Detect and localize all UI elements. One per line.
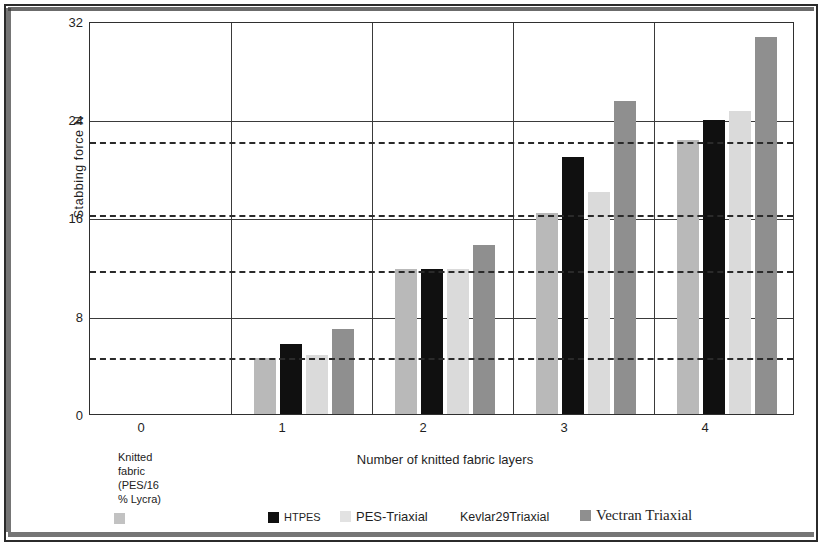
reference-line-0 — [90, 358, 793, 360]
zero-tick-note: Knitted fabric (PES/16 % Lycra) — [118, 450, 210, 506]
bar-group-2 — [372, 23, 513, 414]
x-axis-label: Number of knitted fabric layers — [230, 452, 660, 467]
legend-label-kevlar29triaxial: Kevlar29Triaxial — [460, 510, 549, 524]
y-tick-16: 16 — [49, 211, 83, 226]
legend-item-htpes: HTPES — [268, 511, 321, 523]
legend-label-vectran-triaxial: Vectran Triaxial — [596, 507, 692, 524]
zero-note-line-4: % Lycra) — [118, 492, 210, 506]
page-border-top-shadow — [8, 7, 814, 11]
zero-note-line-1: Knitted — [118, 450, 210, 464]
bar-1-series-1 — [280, 344, 302, 414]
bar-3-series-3 — [614, 101, 636, 414]
bar-2-series-3 — [473, 245, 495, 414]
legend-item-pes-triaxial: PES-Triaxial — [340, 509, 428, 524]
legend-swatch-htpes — [268, 512, 279, 523]
bar-1-series-0 — [254, 358, 276, 414]
y-axis-ticks: 32 24 16 8 0 — [47, 22, 83, 415]
bar-4-series-2 — [729, 111, 751, 414]
bar-group-3 — [513, 23, 654, 414]
bar-1-series-2 — [306, 355, 328, 414]
bar-group-4 — [654, 23, 795, 414]
legend-item-vectran-triaxial: Vectran Triaxial — [580, 507, 692, 524]
bar-3-series-2 — [588, 192, 610, 414]
figure-bar-chart: Stabbing force N 32 24 16 8 0 0 1 2 3 4 … — [0, 0, 825, 548]
legend-swatch-knitted-fabric — [114, 513, 125, 524]
y-tick-32: 32 — [49, 15, 83, 30]
bar-group-0 — [90, 23, 231, 414]
y-tick-24: 24 — [49, 113, 83, 128]
page-border-left-shadow — [6, 8, 11, 532]
reference-line-3 — [90, 142, 793, 144]
plot-area — [89, 22, 794, 415]
x-tick-1: 1 — [278, 420, 285, 435]
bar-2-series-2 — [447, 269, 469, 414]
legend-item-knitted-fabric — [114, 513, 125, 524]
bar-3-series-1 — [562, 157, 584, 414]
x-tick-4: 4 — [701, 420, 708, 435]
chart-legend: HTPES PES-Triaxial Kevlar29Triaxial Vect… — [118, 505, 808, 533]
y-tick-8: 8 — [49, 310, 83, 325]
bar-2-series-0 — [395, 269, 417, 414]
legend-label-htpes: HTPES — [284, 511, 321, 523]
x-tick-0: 0 — [137, 420, 144, 435]
legend-label-pes-triaxial: PES-Triaxial — [356, 509, 428, 524]
x-axis-ticks: 0 1 2 3 4 — [89, 420, 794, 442]
legend-item-kevlar29triaxial: Kevlar29Triaxial — [460, 510, 549, 524]
bar-4-series-1 — [703, 120, 725, 414]
bar-2-series-1 — [421, 269, 443, 414]
bar-group-1 — [231, 23, 372, 414]
y-tick-0: 0 — [49, 408, 83, 423]
x-tick-2: 2 — [419, 420, 426, 435]
zero-note-line-3: (PES/16 — [118, 478, 210, 492]
bar-1-series-3 — [332, 329, 354, 414]
zero-note-line-2: fabric — [118, 464, 210, 478]
reference-line-1 — [90, 271, 793, 273]
bar-4-series-0 — [677, 140, 699, 414]
reference-line-2 — [90, 215, 793, 217]
legend-swatch-pes-triaxial — [340, 511, 351, 522]
x-tick-3: 3 — [560, 420, 567, 435]
legend-swatch-vectran-triaxial — [580, 510, 591, 521]
bar-3-series-0 — [536, 213, 558, 414]
